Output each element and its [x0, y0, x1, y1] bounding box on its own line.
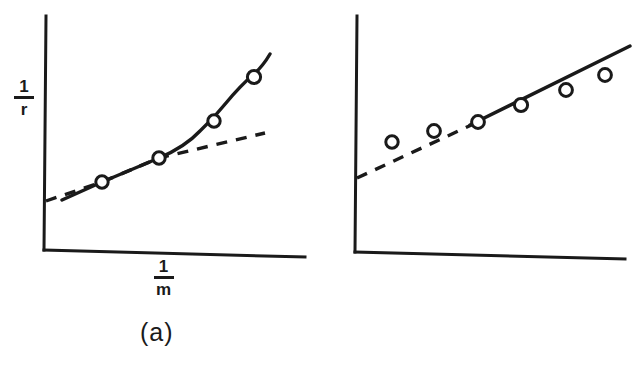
data-point-marker: [428, 125, 441, 138]
x-axis-label-a: 1 m: [152, 258, 175, 298]
data-point-marker: [599, 69, 612, 82]
y-axis-line-a: [44, 16, 46, 250]
data-point-marker: [153, 152, 165, 164]
data-point-marker: [560, 84, 573, 97]
panel-b: 1 r 1 m (b): [320, 0, 640, 369]
dashed-segment-line-b: [357, 121, 480, 178]
panel-b-plot: [320, 0, 640, 369]
x-axis-line-a: [44, 250, 305, 257]
x-axis-label-denominator-a: m: [152, 279, 175, 298]
solid-curve-a: [62, 54, 270, 200]
y-axis-line-b: [355, 16, 357, 252]
data-point-marker: [472, 116, 485, 129]
data-point-marker: [96, 176, 108, 188]
figure-container: 1 r 1 m (a): [0, 0, 640, 369]
data-point-marker: [208, 115, 220, 127]
x-axis-line-b: [355, 252, 625, 259]
data-point-marker: [514, 98, 527, 111]
solid-segment-line-b: [470, 46, 630, 125]
data-point-marker: [247, 70, 260, 83]
x-axis-label-numerator-a: 1: [155, 258, 172, 276]
y-axis-label-denominator-a: r: [17, 99, 32, 118]
data-point-marker: [386, 136, 398, 148]
panel-caption-a: (a): [140, 318, 174, 347]
y-axis-label-a: 1 r: [14, 78, 34, 118]
y-axis-label-numerator-a: 1: [15, 78, 32, 96]
panel-a-plot: [0, 0, 320, 369]
panel-a: 1 r 1 m (a): [0, 0, 320, 369]
